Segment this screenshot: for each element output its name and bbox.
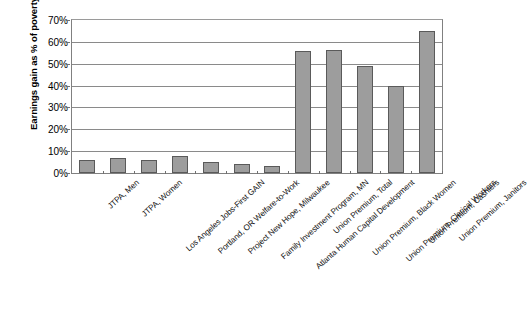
y-axis-tick-labels: 0%10%20%30%40%50%60%70% [30,19,68,174]
bar[interactable] [419,31,435,173]
x-axis-tick-label: JTPA, Women [140,178,184,219]
bar[interactable] [326,50,342,173]
y-axis-tick-label: 20% [34,124,68,135]
bar-slot [257,20,288,173]
x-axis-tick-mark [165,171,166,174]
x-axis-tick-mark [134,171,135,174]
bar-slot [319,20,350,173]
bar-slot [72,20,103,173]
x-axis-tick-mark [442,171,443,174]
y-axis-tick-mark [66,42,70,43]
x-axis-tick-mark [195,171,196,174]
y-axis-tick-mark [66,107,70,108]
y-axis-tick-mark [66,86,70,87]
y-axis-tick-label: 60% [34,36,68,47]
y-axis-tick-mark [66,151,70,152]
bar[interactable] [264,166,280,173]
bar-slot [380,20,411,173]
bar-slot [288,20,319,173]
x-axis-tick-mark [226,171,227,174]
y-axis-tick-mark [66,64,70,65]
bar[interactable] [110,158,126,173]
y-axis-tick-label: 50% [34,58,68,69]
x-axis-tick-mark [350,171,351,174]
bar-slot [165,20,196,173]
x-axis-tick-mark [411,171,412,174]
bar-slot [195,20,226,173]
bars-layer [72,20,442,173]
bar[interactable] [234,164,250,173]
bar[interactable] [141,160,157,173]
x-axis-tick-mark [257,171,258,174]
y-axis-tick-label: 70% [34,15,68,26]
bar[interactable] [357,66,373,173]
bar[interactable] [295,51,311,173]
bar[interactable] [203,162,219,173]
x-axis-tick-mark [319,171,320,174]
x-axis-tick-mark [103,171,104,174]
bar-slot [411,20,442,173]
bar-slot [226,20,257,173]
x-axis-tick-mark [288,171,289,174]
bar-slot [350,20,381,173]
bar-slot [134,20,165,173]
y-axis-tick-mark [66,129,70,130]
bar-slot [103,20,134,173]
x-axis-tick-label: JTPA, Men [106,178,141,211]
y-axis-tick-label: 40% [34,80,68,91]
y-axis-tick-label: 30% [34,102,68,113]
bar[interactable] [388,86,404,173]
bar[interactable] [79,160,95,173]
y-axis-tick-mark [66,20,70,21]
y-axis-tick-label: 10% [34,146,68,157]
x-axis-tick-labels: JTPA, MenJTPA, WomenLos Angeles Jobs-Fir… [0,174,467,312]
bar[interactable] [172,156,188,173]
x-axis-tick-mark [380,171,381,174]
